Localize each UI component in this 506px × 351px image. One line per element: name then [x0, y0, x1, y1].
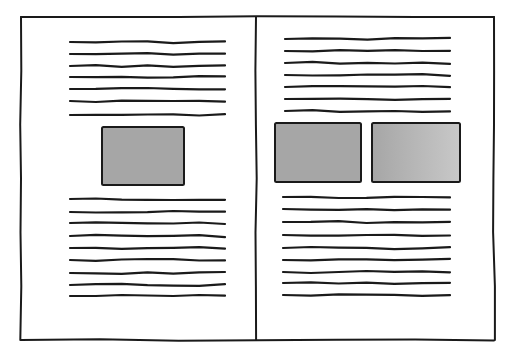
text-line [283, 247, 450, 249]
book-spread-illustration [0, 0, 506, 351]
right-page-text-top [285, 38, 450, 112]
text-line [285, 99, 450, 100]
text-line [70, 295, 225, 296]
left-page-text-bottom [70, 199, 225, 297]
text-line [70, 284, 225, 286]
text-line [70, 65, 225, 67]
book-spine [255, 17, 256, 340]
text-line [285, 50, 450, 51]
left-page-text-top [70, 41, 225, 115]
text-line [70, 222, 225, 224]
text-line [283, 259, 450, 261]
text-line [70, 235, 225, 237]
text-line [285, 62, 450, 64]
image-placeholder [102, 127, 184, 185]
page-top-edge [21, 16, 494, 17]
text-line [285, 110, 450, 112]
text-line [283, 235, 450, 236]
right-page [275, 38, 460, 296]
text-line [283, 221, 450, 223]
left-page [70, 41, 225, 296]
page-bottom-edge [21, 339, 494, 341]
text-line [70, 259, 225, 261]
text-line [70, 272, 225, 274]
text-line [70, 76, 225, 77]
text-line [70, 41, 225, 43]
text-line [70, 247, 225, 249]
text-line [285, 38, 450, 40]
image-placeholder [275, 123, 361, 182]
text-line [70, 199, 225, 201]
text-line [285, 74, 450, 76]
text-line [283, 271, 450, 273]
text-line [70, 88, 225, 89]
text-line [285, 86, 450, 87]
text-line [70, 101, 225, 102]
text-line [70, 53, 225, 54]
right-page-image-placeholders [275, 123, 460, 182]
page-left-edge [20, 17, 21, 340]
text-line [70, 114, 225, 115]
text-line [70, 211, 225, 213]
text-line [283, 294, 450, 296]
left-page-image-placeholder [102, 127, 184, 185]
page-right-edge [493, 17, 495, 340]
image-placeholder [372, 123, 460, 182]
text-line [283, 209, 450, 210]
text-line [283, 197, 450, 198]
right-page-text-bottom [283, 197, 450, 296]
text-line [283, 282, 450, 284]
